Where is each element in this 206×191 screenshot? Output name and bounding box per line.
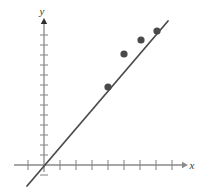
data-point <box>120 50 127 57</box>
chart-figure: x y <box>0 0 206 191</box>
chart-background <box>0 0 206 191</box>
data-point <box>104 83 111 90</box>
scatter-plot-svg: x y <box>0 0 206 191</box>
x-axis-label: x <box>189 159 195 171</box>
data-point <box>137 36 144 43</box>
data-point <box>153 27 160 34</box>
y-axis-label: y <box>39 5 45 17</box>
